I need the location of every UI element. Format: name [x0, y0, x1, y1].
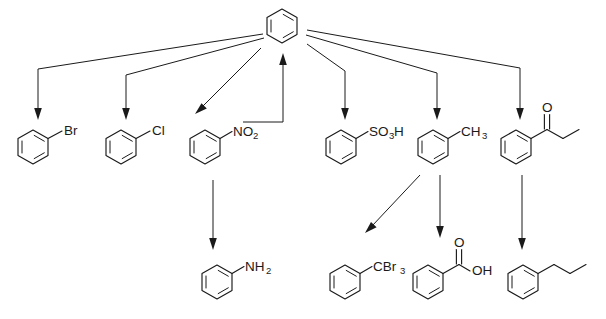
- arrow-nitrobenzene-to-aniline: [209, 180, 217, 250]
- label-ketone-oxygen: O: [542, 100, 553, 115]
- label-so3h-h: H: [394, 124, 404, 139]
- arrow-benzene-to-benzenesulfonic-acid: [307, 44, 349, 120]
- structure-benzene: [267, 9, 297, 43]
- structure-bromobenzene: Br: [18, 123, 78, 164]
- label-ch3-subscript: 3: [482, 130, 487, 141]
- arrow-toluene-to-benzoic-acid: [436, 175, 444, 238]
- arrow-toluene-to-benzotribromide: [365, 175, 420, 233]
- arrow-aniline-to-benzene: [243, 53, 287, 122]
- arrow-benzene-to-toluene: [306, 35, 441, 120]
- label-carbonyl-oxygen: O: [454, 235, 465, 250]
- structure-benzotribromide: CBr 3: [330, 259, 405, 299]
- arrow-benzene-to-propiophenone: [307, 30, 524, 120]
- label-nh2: NH: [245, 259, 265, 274]
- arrow-benzene-to-chlorobenzene: [122, 38, 264, 120]
- label-no2-subscript: 2: [253, 130, 258, 141]
- arrow-propiophenone-to-propylbenzene: [518, 175, 526, 250]
- label-cbr3: CBr: [373, 259, 397, 274]
- arrow-benzene-to-bromobenzene: [34, 34, 263, 120]
- reaction-scheme-diagram: Br Cl NO 2 SO 3 H CH 3: [0, 0, 606, 319]
- structure-aniline: NH 2: [202, 259, 271, 299]
- label-hydroxyl: OH: [472, 263, 492, 278]
- label-ch3: CH: [461, 124, 481, 139]
- label-nh2-subscript: 2: [266, 265, 271, 276]
- structure-propylbenzene: [508, 265, 586, 300]
- arrow-benzene-to-nitrobenzene: [195, 48, 261, 114]
- label-no2: NO: [233, 124, 253, 139]
- structure-nitrobenzene: NO 2: [190, 124, 258, 164]
- structure-benzoic-acid: O OH: [413, 235, 492, 299]
- label-br: Br: [64, 123, 78, 138]
- label-cl: Cl: [152, 123, 165, 138]
- structure-benzenesulfonic-acid: SO 3 H: [326, 124, 404, 164]
- structure-chlorobenzene: Cl: [106, 123, 165, 164]
- scheme-canvas: Br Cl NO 2 SO 3 H CH 3: [0, 0, 606, 319]
- label-cbr3-subscript: 3: [400, 265, 405, 276]
- label-so3h-s: SO: [369, 124, 389, 139]
- structure-toluene: CH 3: [418, 124, 487, 164]
- structure-propiophenone: O: [501, 100, 579, 164]
